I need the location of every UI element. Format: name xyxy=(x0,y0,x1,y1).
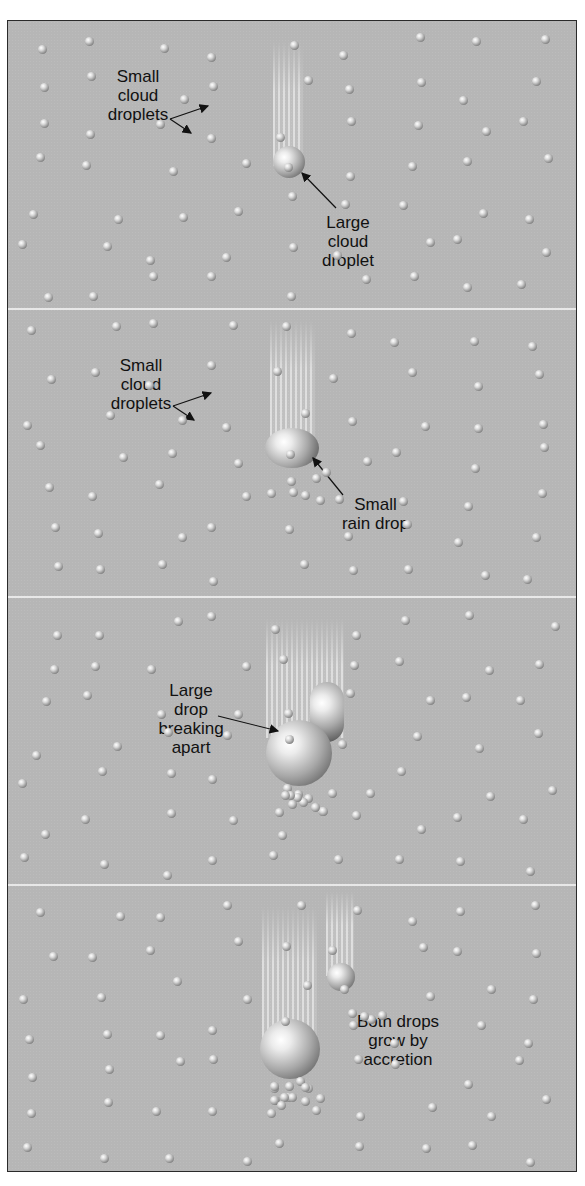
small-cloud-droplet xyxy=(243,995,252,1004)
small-cloud-droplet xyxy=(339,51,348,60)
small-cloud-droplet xyxy=(300,560,309,569)
small-cloud-droplet xyxy=(28,1073,37,1082)
small-cloud-droplet xyxy=(534,729,543,738)
small-cloud-droplet xyxy=(91,662,100,671)
small-cloud-droplet xyxy=(419,943,428,952)
small-cloud-droplet xyxy=(471,464,480,473)
small-cloud-droplet xyxy=(156,1031,165,1040)
small-cloud-droplet xyxy=(209,82,218,91)
small-cloud-droplet xyxy=(83,691,92,700)
small-cloud-droplet xyxy=(173,977,182,986)
small-cloud-droplet xyxy=(515,1056,524,1065)
accreting-droplet xyxy=(288,800,297,809)
small-cloud-droplet xyxy=(408,162,417,171)
small-cloud-droplet xyxy=(468,1141,477,1150)
small-cloud-droplet xyxy=(89,292,98,301)
small-cloud-droplet xyxy=(346,172,355,181)
small-cloud-droplet xyxy=(112,322,121,331)
small-cloud-droplet xyxy=(462,693,471,702)
small-cloud-droplet xyxy=(345,85,354,94)
small-cloud-droplet xyxy=(347,117,356,126)
small-cloud-droplet xyxy=(285,735,294,744)
small-cloud-droplet xyxy=(167,809,176,818)
small-cloud-droplet xyxy=(346,689,355,698)
small-cloud-droplet xyxy=(282,942,291,951)
accreting-droplet xyxy=(312,1106,321,1115)
small-cloud-droplet xyxy=(485,666,494,675)
small-cloud-droplet xyxy=(426,238,435,247)
small-cloud-droplet xyxy=(523,575,532,584)
small-cloud-droplet xyxy=(404,565,413,574)
small-cloud-droplet xyxy=(454,538,463,547)
small-cloud-droplet xyxy=(395,855,404,864)
small-cloud-droplet xyxy=(532,949,541,958)
small-cloud-droplet xyxy=(517,280,526,289)
small-cloud-droplet xyxy=(348,417,357,426)
small-cloud-droplet xyxy=(524,1039,533,1048)
small-cloud-droplet xyxy=(179,213,188,222)
small-cloud-droplet xyxy=(158,560,167,569)
small-cloud-droplet xyxy=(147,665,156,674)
small-cloud-droplet xyxy=(116,912,125,921)
accreting-droplet xyxy=(277,1101,286,1110)
small-cloud-droplet xyxy=(95,631,104,640)
small-cloud-droplet xyxy=(243,1157,252,1166)
small-cloud-droplet xyxy=(453,235,462,244)
small-cloud-droplet xyxy=(353,906,362,915)
small-cloud-droplet xyxy=(417,78,426,87)
small-cloud-droplet xyxy=(160,44,169,53)
small-cloud-droplet xyxy=(284,709,293,718)
small-cloud-droplet xyxy=(168,449,177,458)
small-cloud-droplet xyxy=(391,1060,400,1069)
small-cloud-droplet xyxy=(152,1107,161,1116)
small-cloud-droplet xyxy=(290,41,299,50)
small-cloud-droplet xyxy=(340,985,349,994)
small-cloud-droplet xyxy=(541,35,550,44)
small-cloud-droplet xyxy=(207,361,216,370)
small-cloud-droplet xyxy=(163,871,172,880)
small-cloud-droplet xyxy=(222,253,231,262)
small-cloud-droplet xyxy=(344,532,353,541)
small-cloud-droplet xyxy=(96,565,105,574)
label-large-drop-breaking-apart: Large drop breaking apart xyxy=(156,681,226,757)
small-cloud-droplet xyxy=(532,533,541,542)
accreting-droplet xyxy=(311,803,320,812)
small-rain-drop xyxy=(265,428,319,468)
small-cloud-droplet xyxy=(25,1035,34,1044)
small-cloud-droplet xyxy=(223,901,232,910)
small-cloud-droplet xyxy=(528,342,537,351)
small-cloud-droplet xyxy=(81,815,90,824)
small-cloud-droplet xyxy=(397,767,406,776)
accreting-droplet xyxy=(348,1009,357,1018)
small-cloud-droplet xyxy=(304,76,313,85)
large-drop-breaking-apart xyxy=(266,720,332,786)
accreting-droplet xyxy=(285,1082,294,1091)
small-cloud-droplet xyxy=(352,631,361,640)
label-small-cloud-droplets: Small cloud droplets xyxy=(83,67,193,124)
rain-formation-figure: Small cloud droplets Large cloud droplet… xyxy=(7,20,577,1172)
small-cloud-droplet xyxy=(149,272,158,281)
small-cloud-droplet xyxy=(341,200,350,209)
small-cloud-droplet xyxy=(19,995,28,1004)
small-cloud-droplet xyxy=(284,163,293,172)
small-cloud-droplet xyxy=(119,453,128,462)
small-cloud-droplet xyxy=(487,1112,496,1121)
large-cloud-droplet xyxy=(273,146,305,178)
small-cloud-droplet xyxy=(208,856,217,865)
small-cloud-droplet xyxy=(486,792,495,801)
small-cloud-droplet xyxy=(399,201,408,210)
small-cloud-droplet xyxy=(29,210,38,219)
small-cloud-droplet xyxy=(401,616,410,625)
accreting-droplet xyxy=(316,1094,325,1103)
small-cloud-droplet xyxy=(453,813,462,822)
small-cloud-droplet xyxy=(352,811,361,820)
small-cloud-droplet xyxy=(426,696,435,705)
small-cloud-droplet xyxy=(544,154,553,163)
label-large-cloud-droplet: Large cloud droplet xyxy=(308,213,388,270)
small-cloud-droplet xyxy=(282,322,291,331)
small-cloud-droplet xyxy=(333,251,342,260)
small-cloud-droplet xyxy=(41,830,50,839)
small-cloud-droplet xyxy=(176,1057,185,1066)
accreting-droplet xyxy=(316,496,325,505)
small-cloud-droplet xyxy=(113,742,122,751)
